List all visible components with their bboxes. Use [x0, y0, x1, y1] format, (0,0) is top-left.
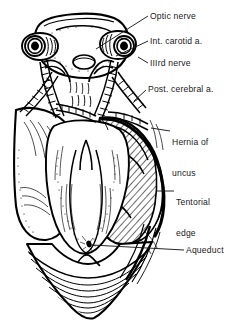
- label-third-nerve: IIIrd nerve: [150, 58, 191, 68]
- optic-nerve-stump-left: [22, 33, 58, 60]
- label-hernia-of-uncus-line1: Hernia of: [172, 137, 208, 147]
- label-tentorial-edge-line2: edge: [176, 228, 210, 238]
- leader-third-nerve: [138, 57, 148, 63]
- label-tentorial-edge-line1: Tentorial: [176, 197, 210, 207]
- label-posterior-cerebral: Post. cerebral a.: [148, 84, 214, 94]
- anatomical-figure: Optic nerve Int. carotid a. IIIrd nerve …: [0, 0, 234, 331]
- label-optic-nerve: Optic nerve: [150, 11, 196, 21]
- label-internal-carotid: Int. carotid a.: [150, 36, 202, 46]
- label-aqueduct: Aqueduct: [186, 245, 224, 255]
